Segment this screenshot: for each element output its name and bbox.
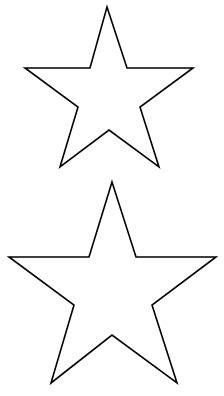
stars-canvas (0, 0, 224, 396)
star-top-icon (25, 7, 193, 167)
star-bottom-icon (9, 182, 216, 383)
